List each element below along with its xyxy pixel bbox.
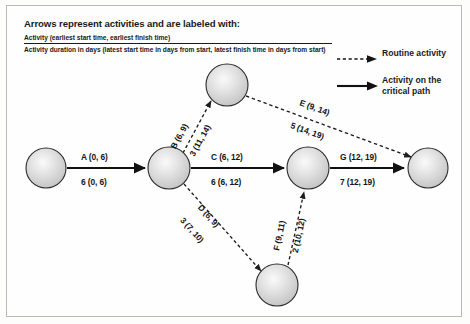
edge-C-top-label: C (6, 12)	[211, 152, 243, 162]
edge-E-line	[246, 96, 411, 157]
network-diagram	[0, 0, 470, 324]
node-n5[interactable]	[256, 264, 298, 306]
edge-G-top-label: G (12, 19)	[340, 152, 377, 162]
edge-C-bottom-label: 6 (6, 12)	[211, 177, 241, 187]
edge-A-top-label: A (0, 6)	[81, 152, 108, 162]
node-n2[interactable]	[148, 147, 190, 189]
node-n3[interactable]	[206, 64, 248, 106]
edge-A-bottom-label: 6 (0, 6)	[81, 177, 107, 187]
node-n6[interactable]	[408, 148, 448, 188]
diagram-page: Arrows represent activities and are labe…	[0, 0, 470, 324]
edge-G-bottom-label: 7 (12, 19)	[340, 177, 375, 187]
node-n1[interactable]	[26, 148, 66, 188]
node-n4[interactable]	[287, 147, 329, 189]
